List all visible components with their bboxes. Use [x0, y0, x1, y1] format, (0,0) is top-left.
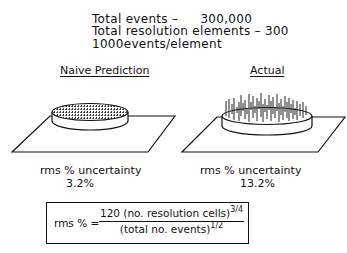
formula-numerator: 120 (no. resolution cells)3/4 — [99, 207, 244, 222]
denominator-exponent: 1/2 — [210, 221, 223, 230]
formula-lhs: rms % = — [54, 217, 99, 229]
naive-metric-label: rms % uncertainty — [40, 165, 141, 177]
actual-metric-value: 13.2% — [240, 178, 275, 190]
formula-box: rms % = 120 (no. resolution cells)3/4 (t… — [46, 202, 249, 244]
actual-metric-label: rms % uncertainty — [200, 165, 301, 177]
numerator-exponent: 3/4 — [230, 205, 243, 214]
numerator-text: 120 (no. resolution cells) — [100, 207, 230, 219]
naive-metric-value: 3.2% — [66, 178, 94, 190]
formula-fraction: 120 (no. resolution cells)3/4 (total no.… — [99, 207, 244, 235]
spiky-disk-icon — [182, 93, 345, 152]
formula-denominator: (total no. events)1/2 — [99, 222, 244, 235]
denominator-text: (total no. events) — [120, 223, 211, 235]
uniform-disk-icon — [12, 104, 175, 153]
